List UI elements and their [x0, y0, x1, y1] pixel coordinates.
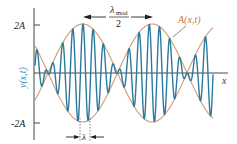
wave-packet-figure: 2A -2A y(x,t) x A(x,t) λ mod 2 λ [0, 0, 237, 144]
lambda-mod-symbol: λ [109, 4, 115, 15]
envelope-leader-line [173, 26, 186, 37]
tick-label-neg-2A: -2A [11, 118, 26, 129]
envelope-lower [35, 73, 213, 122]
lambda-mod-half-annotation: λ mod 2 [83, 4, 153, 29]
lambda-mod-denominator: 2 [116, 18, 121, 29]
x-axis-label: x [221, 75, 227, 86]
lambda-mod-subscript: mod [116, 9, 128, 16]
tick-label-2A: 2A [14, 20, 26, 31]
y-axis-label: y(x,t) [17, 67, 29, 89]
lambda-carrier-label: λ [81, 132, 86, 142]
envelope-label: A(x,t) [177, 14, 201, 26]
